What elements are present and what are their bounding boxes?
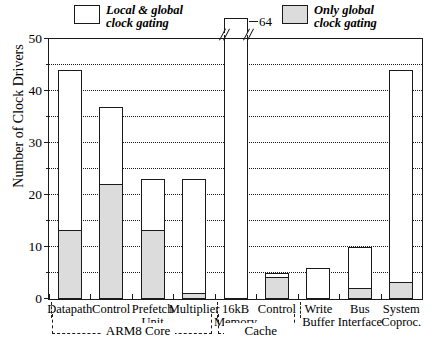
x-tick-2 bbox=[132, 294, 133, 299]
bar-only-global-segment bbox=[59, 230, 81, 298]
legend-label-only-global: Only global clock gating bbox=[314, 4, 377, 29]
chart-figure: Local & global clock gating Only global … bbox=[0, 0, 440, 352]
bar-only-global-segment bbox=[183, 293, 205, 298]
group-separator-0 bbox=[51, 302, 52, 318]
bar-total-segment bbox=[348, 247, 372, 299]
legend-label-only-global-line2: clock gating bbox=[314, 17, 377, 30]
bar-system-coproc[interactable] bbox=[389, 39, 413, 299]
x-tick-6 bbox=[298, 294, 299, 299]
y-tick-label-30: 30 bbox=[2, 136, 42, 150]
bar-total-segment bbox=[389, 70, 413, 299]
bar-broken-continuation bbox=[224, 18, 248, 38]
group-separator-6 bbox=[300, 302, 301, 318]
bar-multiplier[interactable] bbox=[182, 39, 206, 299]
x-axis-label-8-line1: Coproc. bbox=[375, 316, 428, 329]
bar-only-global-segment bbox=[100, 184, 122, 298]
x-tick-3 bbox=[173, 294, 174, 299]
y-tick-mark-40 bbox=[44, 90, 49, 91]
legend-item-local-global: Local & global clock gating bbox=[74, 4, 183, 29]
bar-only-global-segment bbox=[390, 282, 412, 298]
bar-write-buffer[interactable] bbox=[306, 39, 330, 299]
bar-prefetch-unit[interactable] bbox=[141, 39, 165, 299]
bar-total-segment bbox=[306, 268, 330, 299]
y-minor-tick-45 bbox=[46, 64, 49, 65]
bar-only-global-segment bbox=[349, 288, 371, 298]
group-label-cache: Cache bbox=[224, 323, 298, 339]
x-tick-0 bbox=[49, 294, 50, 299]
overflow-value-label: 64 bbox=[259, 14, 272, 30]
bar-16kb-memory[interactable] bbox=[224, 39, 248, 299]
y-minor-tick-15 bbox=[46, 220, 49, 221]
y-minor-tick-25 bbox=[46, 168, 49, 169]
bar-total-segment bbox=[224, 39, 248, 299]
bar-total-segment bbox=[182, 179, 206, 299]
group-label-arm8-core: ARM8 Core bbox=[101, 323, 175, 339]
bar-total-segment bbox=[265, 273, 289, 299]
y-tick-mark-50 bbox=[44, 38, 49, 39]
y-tick-mark-20 bbox=[44, 194, 49, 195]
legend-swatch-only-global-icon bbox=[282, 5, 308, 24]
y-tick-label-50: 50 bbox=[2, 32, 42, 46]
group-separator-4 bbox=[217, 302, 218, 318]
bar-total-segment bbox=[99, 107, 123, 299]
legend-swatch-local-global-icon bbox=[74, 5, 100, 24]
y-minor-tick-35 bbox=[46, 116, 49, 117]
y-tick-label-0: 0 bbox=[2, 292, 42, 306]
bar-datapath[interactable] bbox=[58, 39, 82, 299]
bar-total-segment bbox=[58, 70, 82, 299]
legend-label-local-global-line1: Local & global bbox=[106, 4, 183, 17]
legend-label-only-global-line1: Only global bbox=[314, 4, 377, 17]
plot-area bbox=[48, 38, 423, 300]
overflow-leader-line bbox=[249, 21, 258, 22]
x-tick-1 bbox=[90, 294, 91, 299]
y-tick-label-40: 40 bbox=[2, 84, 42, 98]
axis-break-mark-0 bbox=[219, 33, 230, 35]
y-tick-mark-30 bbox=[44, 142, 49, 143]
y-tick-mark-10 bbox=[44, 246, 49, 247]
x-tick-7 bbox=[339, 294, 340, 299]
bar-control[interactable] bbox=[99, 39, 123, 299]
bar-control[interactable] bbox=[265, 39, 289, 299]
x-tick-8 bbox=[381, 294, 382, 299]
x-tick-4 bbox=[215, 294, 216, 299]
x-tick-5 bbox=[256, 294, 257, 299]
y-minor-tick-5 bbox=[46, 272, 49, 273]
bar-only-global-segment bbox=[266, 277, 288, 298]
y-tick-label-10: 10 bbox=[2, 240, 42, 254]
y-tick-label-20: 20 bbox=[2, 188, 42, 202]
legend-item-only-global: Only global clock gating bbox=[282, 4, 377, 29]
x-axis-label-8: SystemCoproc. bbox=[375, 303, 428, 329]
bar-only-global-segment bbox=[142, 230, 164, 298]
axis-break-mark-1 bbox=[243, 33, 254, 35]
legend-label-local-global-line2: clock gating bbox=[106, 17, 183, 30]
bar-total-segment bbox=[141, 179, 165, 299]
legend-label-local-global: Local & global clock gating bbox=[106, 4, 183, 29]
bar-bus-interface[interactable] bbox=[348, 39, 372, 299]
